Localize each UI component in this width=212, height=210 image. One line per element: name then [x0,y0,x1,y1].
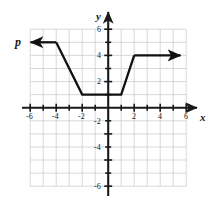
x-tick-label-6: 6 [184,113,188,121]
y-tick-label-2: 2 [97,78,101,86]
x-tick-label-neg4: -4 [52,113,59,121]
graph-figure: -6 -4 -2 2 4 6 6 4 2 -2 -4 -6 y x p [0,0,212,210]
x-tick-label-neg6: -6 [26,113,33,121]
y-tick-label-neg2: -2 [94,118,101,126]
y-tick-label-4: 4 [97,52,101,60]
x-tick-label-neg2: -2 [78,113,85,121]
function-label-p: p [15,36,21,48]
y-tick-label-neg6: -6 [94,183,101,191]
y-tick-label-6: 6 [97,26,101,34]
coordinate-plane-svg [0,0,212,210]
x-axis-label: x [200,112,206,123]
x-tick-label-2: 2 [132,113,136,121]
x-tick-label-4: 4 [158,113,162,121]
y-tick-label-neg4: -4 [94,144,101,152]
y-axis-label: y [96,11,101,22]
